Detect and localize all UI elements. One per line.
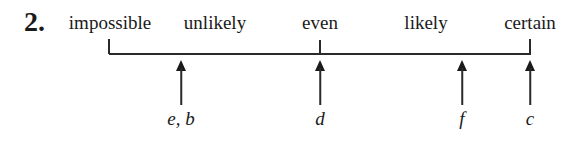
tick-even [319,40,321,54]
arrow-shaft [180,68,182,105]
arrow-shaft [461,68,463,105]
point-label-c: c [526,108,534,130]
point-label-d: d [315,108,325,130]
scale-label-certain: certain [504,12,556,34]
scale-label-even: even [302,12,338,34]
tick-certain [529,39,531,54]
arrow-shaft [529,68,531,105]
scale-label-unlikely: unlikely [184,12,246,34]
point-label-eb: e, b [167,108,194,130]
question-number: 2. [24,6,45,38]
scale-label-impossible: impossible [69,12,151,34]
point-label-f: f [459,108,464,130]
arrow-shaft [319,68,321,105]
tick-impossible [108,39,110,54]
scale-label-likely: likely [404,12,447,34]
